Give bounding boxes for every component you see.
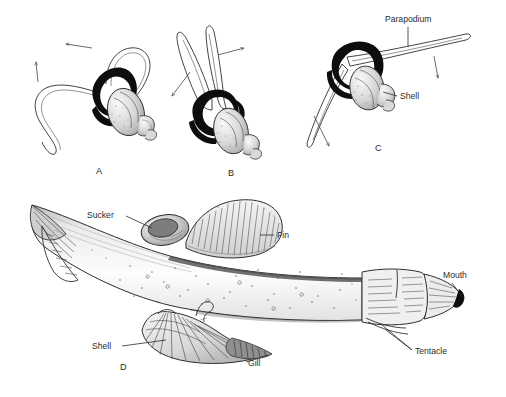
scientific-figure: A: [0, 0, 506, 397]
label-mouth: Mouth: [443, 270, 467, 280]
figure-background: [0, 0, 506, 397]
panel-letter-a: A: [96, 166, 103, 176]
label-tentacle: Tentacle: [415, 346, 447, 356]
label-shell-d: Shell: [92, 341, 111, 351]
label-sucker: Sucker: [87, 210, 114, 220]
figure-canvas: A: [0, 0, 506, 397]
panel-letter-b: B: [228, 168, 234, 178]
label-shell-c: Shell: [400, 91, 419, 101]
panel-letter-c: C: [375, 143, 382, 153]
label-parapodium: Parapodium: [385, 14, 431, 24]
panel-letter-d: D: [120, 362, 127, 372]
label-fin: Fin: [277, 230, 289, 240]
